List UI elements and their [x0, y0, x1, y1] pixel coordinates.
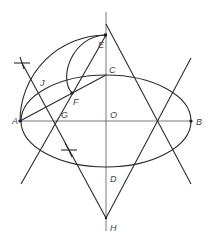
line-apex-right [106, 24, 191, 184]
point-h [105, 217, 107, 219]
arc-cross-mark-top [14, 57, 30, 69]
label-d: D [110, 174, 117, 184]
label-g: G [61, 110, 68, 120]
point-f [70, 91, 73, 94]
point-b [189, 119, 192, 122]
label-h: H [110, 223, 117, 233]
label-a: A [11, 116, 18, 126]
label-f: F [73, 97, 79, 107]
ellipse-construction-diagram: A B C D O E F G H J [0, 0, 212, 241]
label-c: C [109, 65, 116, 75]
point-a [18, 119, 21, 122]
point-e [104, 34, 107, 37]
arc-a-to-e [20, 35, 106, 121]
label-b: B [196, 117, 202, 127]
label-o: O [110, 110, 117, 120]
line-h-right [106, 58, 191, 218]
label-e: E [98, 40, 105, 50]
label-j: J [39, 78, 45, 88]
perpendicular-bisector-line [22, 63, 106, 218]
arc-cross-mark-bottom [61, 143, 77, 157]
